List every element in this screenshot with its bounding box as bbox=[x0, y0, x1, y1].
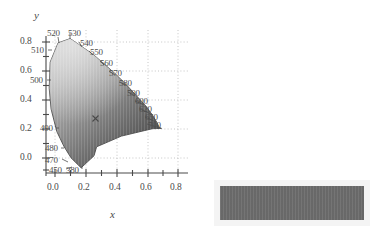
color-swatch-panel bbox=[214, 180, 370, 226]
wavelength-label-580: 580 bbox=[119, 78, 132, 88]
y-tick-label-0.8: 0.8 bbox=[20, 36, 32, 46]
wavelength-label-510: 510 bbox=[31, 45, 44, 55]
wavelength-label-490: 490 bbox=[40, 123, 53, 133]
wavelength-label-700: 700 bbox=[148, 120, 161, 130]
wavelength-label-560: 560 bbox=[100, 58, 113, 68]
spectral-locus-area bbox=[44, 30, 174, 175]
x-tick-label-0.2: 0.2 bbox=[78, 182, 90, 192]
wavelength-label-500: 500 bbox=[30, 75, 43, 85]
wavelength-label-470: 470 bbox=[45, 155, 58, 165]
x-tick-label-0.4: 0.4 bbox=[109, 182, 121, 192]
cie-chromaticity-figure: y x bbox=[0, 0, 200, 236]
x-tick-label-0.8: 0.8 bbox=[170, 182, 182, 192]
y-tick-label-0.0: 0.0 bbox=[20, 152, 32, 162]
wavelength-label-380: 380 bbox=[66, 165, 79, 175]
wavelength-label-480: 480 bbox=[45, 143, 58, 153]
x-tick-label-0.0: 0.0 bbox=[47, 182, 59, 192]
wavelength-label-530: 530 bbox=[68, 28, 81, 38]
wavelength-label-570: 570 bbox=[109, 68, 122, 78]
color-swatch bbox=[220, 186, 364, 220]
x-tick-label-0.6: 0.6 bbox=[140, 182, 152, 192]
y-tick-label-0.4: 0.4 bbox=[20, 94, 32, 104]
wavelength-label-520: 520 bbox=[47, 28, 60, 38]
wavelength-label-450: 450 bbox=[49, 165, 62, 175]
y-tick-label-0.6: 0.6 bbox=[20, 65, 32, 75]
wavelength-label-550: 550 bbox=[90, 47, 103, 57]
y-tick-label-0.2: 0.2 bbox=[20, 123, 32, 133]
